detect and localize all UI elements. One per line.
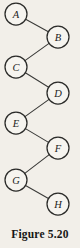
node-label-g: G bbox=[12, 175, 20, 186]
tree-edge-g-h bbox=[26, 185, 49, 198]
edge-layer bbox=[25, 19, 50, 198]
tree-node-h: H bbox=[47, 193, 69, 215]
figure-container: ABCDEFGH Figure 5.20 bbox=[0, 0, 80, 248]
tree-node-g: G bbox=[5, 169, 27, 191]
tree-edge-b-c bbox=[25, 43, 49, 60]
node-label-a: A bbox=[12, 9, 20, 20]
tree-edge-f-g bbox=[25, 155, 50, 174]
tree-node-d: D bbox=[47, 82, 69, 104]
tree-node-b: B bbox=[47, 26, 69, 48]
tree-edge-e-f bbox=[25, 129, 48, 143]
tree-diagram: ABCDEFGH bbox=[0, 0, 80, 248]
node-label-f: F bbox=[54, 143, 62, 154]
tree-node-a: A bbox=[5, 3, 27, 25]
tree-node-f: F bbox=[47, 137, 69, 159]
tree-node-e: E bbox=[5, 112, 27, 134]
node-layer: ABCDEFGH bbox=[5, 3, 69, 215]
tree-edge-a-b bbox=[26, 19, 49, 31]
tree-edge-d-e bbox=[25, 99, 49, 116]
tree-edge-c-d bbox=[25, 73, 48, 87]
figure-caption: Figure 5.20 bbox=[0, 228, 80, 240]
node-label-b: B bbox=[55, 32, 62, 43]
node-label-c: C bbox=[12, 62, 20, 73]
node-label-h: H bbox=[53, 199, 63, 210]
node-label-e: E bbox=[12, 118, 20, 129]
node-label-d: D bbox=[53, 88, 62, 99]
tree-node-c: C bbox=[5, 56, 27, 78]
